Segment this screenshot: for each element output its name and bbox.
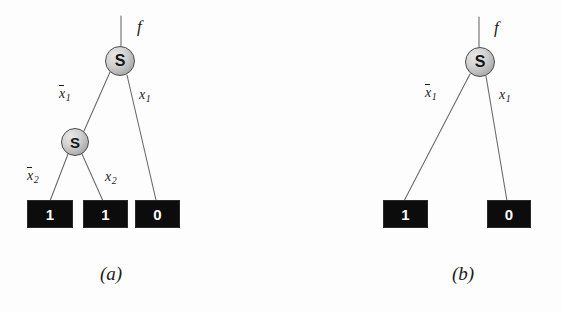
node-a-root-label: S	[115, 53, 126, 69]
edge-label-a-x2: x2	[105, 168, 117, 186]
var-x: x	[425, 86, 431, 100]
edge-a-n2-to-leaf1	[50, 154, 68, 201]
edge-label-b-not-x1: x1	[425, 84, 437, 102]
edge-label-a-not-x1: x1	[59, 85, 71, 103]
function-label-f-a: f	[137, 18, 142, 35]
var-x: x	[27, 169, 33, 183]
bdd-figure: f S S x1 x1 x2 x2 1 1 0 (a) f S x1	[0, 0, 561, 312]
subscript-2: 2	[34, 174, 39, 185]
subscript-1: 1	[506, 93, 511, 104]
leaf-b-1[interactable]: 1	[383, 200, 428, 228]
node-a-x2-label: S	[70, 135, 80, 150]
leaf-a-2-value: 1	[101, 207, 109, 222]
leaf-b-1-value: 1	[401, 207, 409, 222]
node-a-x2[interactable]: S	[61, 128, 89, 156]
leaf-a-1-value: 1	[46, 207, 54, 222]
edge-a-n2-to-leaf2	[82, 154, 103, 201]
var-x: x	[139, 87, 145, 102]
var-x: x	[105, 169, 111, 184]
subscript-1: 1	[432, 91, 437, 102]
leaf-b-2[interactable]: 0	[487, 200, 531, 228]
caption-a: (a)	[86, 264, 136, 283]
subscript-1: 1	[66, 92, 71, 103]
subscript-2: 2	[112, 175, 117, 186]
var-x: x	[499, 87, 505, 102]
edge-label-a-x1: x1	[139, 86, 151, 104]
leaf-a-3[interactable]: 0	[135, 200, 180, 228]
subscript-1: 1	[146, 93, 151, 104]
function-label-f-b: f	[494, 19, 499, 36]
node-b-root-label: S	[475, 54, 486, 70]
caption-b: (b)	[438, 264, 488, 283]
node-b-root[interactable]: S	[465, 47, 495, 77]
edge-a-n1-to-n2	[84, 72, 110, 131]
leaf-b-2-value: 0	[505, 207, 513, 222]
var-x: x	[59, 87, 65, 101]
leaf-a-2[interactable]: 1	[83, 200, 128, 228]
leaf-a-1[interactable]: 1	[27, 200, 73, 228]
edge-label-b-x1: x1	[499, 86, 511, 104]
leaf-a-3-value: 0	[153, 207, 161, 222]
node-a-root[interactable]: S	[105, 46, 135, 76]
edge-label-a-not-x2: x2	[27, 167, 39, 185]
edge-b-n1-to-leaf1	[404, 74, 470, 201]
